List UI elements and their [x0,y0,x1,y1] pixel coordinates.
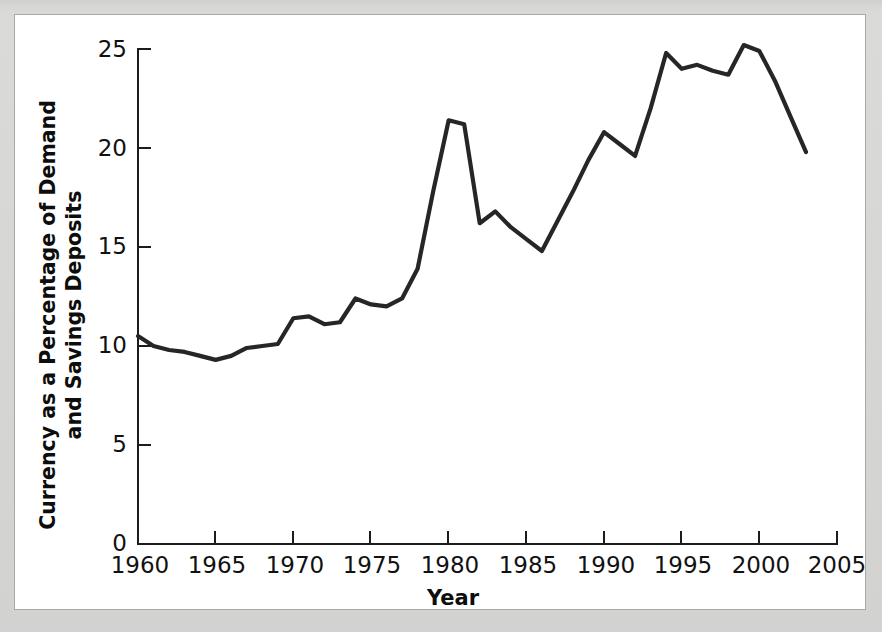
x-tick-label-1985: 1985 [499,552,558,578]
x-tick-label-1960: 1960 [111,552,170,578]
x-axis-title: Year [426,586,480,610]
line-chart: Currency as a Percentage of Demand and S… [15,15,866,610]
x-tick-label-1965: 1965 [188,552,247,578]
y-axis-title-line-1: Currency as a Percentage of Demand [36,100,60,530]
x-axis-ticks [138,531,837,544]
x-tick-label-1990: 1990 [577,552,636,578]
x-tick-labels: 1960 1965 1970 1975 1980 1985 1990 1995 … [111,552,866,578]
y-tick-label-10: 10 [98,332,127,358]
data-series-line [138,45,806,360]
y-axis-title-line-2: and Savings Deposits [62,191,86,440]
x-tick-label-1975: 1975 [343,552,402,578]
y-tick-label-25: 25 [98,36,127,62]
x-tick-label-1995: 1995 [654,552,713,578]
y-tick-label-5: 5 [112,431,127,457]
y-tick-label-20: 20 [98,135,127,161]
y-tick-labels: 25 20 15 10 5 0 [98,36,127,556]
y-axis-title: Currency as a Percentage of Demand and S… [36,100,86,530]
chart-plot-area: Currency as a Percentage of Demand and S… [15,15,866,610]
y-axis-ticks [138,49,151,445]
x-tick-label-2005: 2005 [808,552,866,578]
y-tick-label-15: 15 [98,233,127,259]
scanned-page-background: Currency as a Percentage of Demand and S… [0,0,882,632]
x-tick-label-1980: 1980 [421,552,480,578]
figure-card: Currency as a Percentage of Demand and S… [14,14,866,610]
x-tick-label-2000: 2000 [732,552,791,578]
x-tick-label-1970: 1970 [266,552,325,578]
